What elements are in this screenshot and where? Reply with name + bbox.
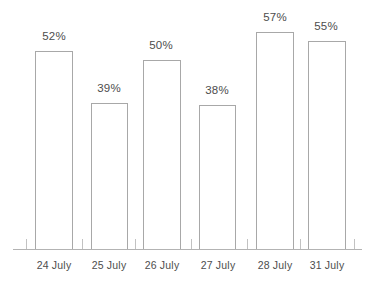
bar-31-july xyxy=(308,41,346,250)
bar-value-label: 39% xyxy=(74,82,144,94)
bar-value-label: 52% xyxy=(19,30,89,42)
bar-24-july xyxy=(35,51,73,250)
bar-value-label: 50% xyxy=(126,39,196,51)
x-axis-label-31-july: 31 July xyxy=(292,259,362,271)
x-axis-line xyxy=(13,249,362,250)
bar-26-july xyxy=(143,60,181,250)
bar-28-july xyxy=(256,32,294,250)
bar-chart: 52% 39% 50% 38% 57% 55% 24 July 25 July … xyxy=(0,0,377,290)
bar-value-label: 55% xyxy=(291,20,361,32)
plot-area: 52% 39% 50% 38% 57% 55% xyxy=(0,0,377,250)
bar-27-july xyxy=(199,105,236,250)
bar-25-july xyxy=(91,103,128,250)
bar-value-label: 38% xyxy=(182,84,252,96)
